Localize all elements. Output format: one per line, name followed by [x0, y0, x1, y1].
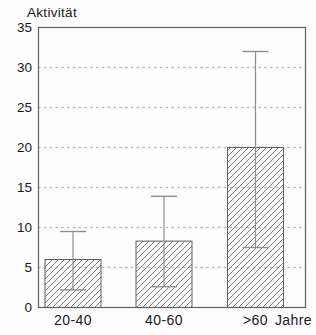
x-tick-label: >60 — [243, 312, 268, 328]
y-tick-label: 20 — [17, 140, 32, 155]
bar-chart: Aktivität 0510152025303520-4040-60>60Jah… — [0, 0, 316, 335]
y-tick-label: 0 — [24, 300, 32, 315]
x-tick-label: 40-60 — [145, 312, 183, 328]
y-tick-label: 25 — [17, 100, 32, 115]
x-axis-unit-label: Jahre — [275, 312, 312, 328]
y-tick-label: 5 — [24, 260, 32, 275]
y-tick-label: 15 — [17, 180, 32, 195]
y-tick-label: 10 — [17, 220, 32, 235]
y-tick-label: 30 — [17, 60, 32, 75]
y-tick-label: 35 — [17, 20, 32, 35]
chart-plot-area: 0510152025303520-4040-60>60Jahre — [0, 0, 316, 335]
x-tick-label: 20-40 — [54, 312, 92, 328]
